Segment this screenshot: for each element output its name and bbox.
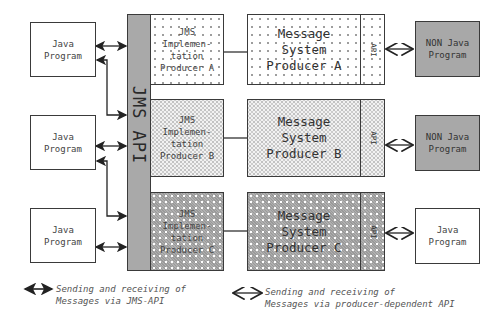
message-system-b: Message System Producer B API xyxy=(247,99,385,177)
producer-api-section: API xyxy=(360,193,384,270)
message-system-c: Message System Producer C API xyxy=(247,192,385,271)
program-label: NON Java Program xyxy=(426,131,469,155)
legend-producer-text: Sending and receiving of Messages via pr… xyxy=(265,286,455,310)
java-program-left-3: Java Program xyxy=(30,208,96,263)
api-label: API xyxy=(364,225,380,239)
api-label: API xyxy=(364,43,380,57)
jms-api-arrows xyxy=(96,46,126,247)
jms-implementation-label: JMS Implemen- tation Producer C xyxy=(160,208,214,256)
non-java-program-right-1: NON Java Program xyxy=(415,21,480,77)
non-java-program-right-2: NON Java Program xyxy=(415,115,480,171)
impl-to-message-system-lines xyxy=(223,52,247,231)
message-system-a: Message System Producer A API xyxy=(247,14,385,85)
java-program-left-2: Java Program xyxy=(30,115,96,170)
jms-implementation-label: JMS Implemen- tation Producer A xyxy=(160,26,214,74)
message-system-label: Message System Producer A xyxy=(248,26,360,74)
producer-api-section: API xyxy=(360,15,384,84)
java-program-left-1: Java Program xyxy=(30,22,96,77)
legend-jms-text: Sending and receiving of Messages via JM… xyxy=(56,283,186,307)
java-program-label: Java Program xyxy=(44,38,82,62)
jms-implementation-a: JMS Implemen- tation Producer A xyxy=(150,14,224,85)
java-program-label: Java Program xyxy=(44,224,82,248)
message-system-label: Message System Producer B xyxy=(248,114,360,162)
java-program-label: Java Program xyxy=(44,131,82,155)
producer-api-section: API xyxy=(360,100,384,176)
producer-api-arrows xyxy=(386,49,413,233)
api-label: API xyxy=(364,131,380,145)
jms-api-label: JMS API xyxy=(129,86,149,165)
jms-implementation-label: JMS Implemen- tation Producer B xyxy=(160,114,214,162)
java-program-right-3: Java Program xyxy=(415,208,480,264)
message-system-label: Message System Producer C xyxy=(248,208,360,256)
program-label: Java Program xyxy=(429,224,467,248)
jms-api-bar: JMS API xyxy=(127,14,151,271)
jms-implementation-b: JMS Implemen- tation Producer B xyxy=(150,99,224,177)
jms-implementation-c: JMS Implemen- tation Producer C xyxy=(150,192,224,271)
program-label: NON Java Program xyxy=(426,37,469,61)
